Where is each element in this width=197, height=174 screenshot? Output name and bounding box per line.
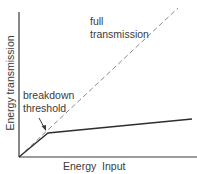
full-transmission-label-line1: full bbox=[90, 15, 103, 27]
energy-transmission-diagram: full transmission breakdown threshold En… bbox=[0, 0, 197, 174]
breakdown-threshold-label-line2: threshold bbox=[23, 102, 66, 114]
breakdown-arrow-head-icon bbox=[42, 125, 47, 131]
actual-transmission-line bbox=[19, 119, 192, 157]
x-axis-label: Energy Input bbox=[63, 160, 125, 172]
full-transmission-label-line2: transmission bbox=[90, 28, 149, 40]
y-axis-label: Energy transmission bbox=[4, 23, 16, 143]
breakdown-threshold-label-line1: breakdown bbox=[23, 89, 74, 101]
